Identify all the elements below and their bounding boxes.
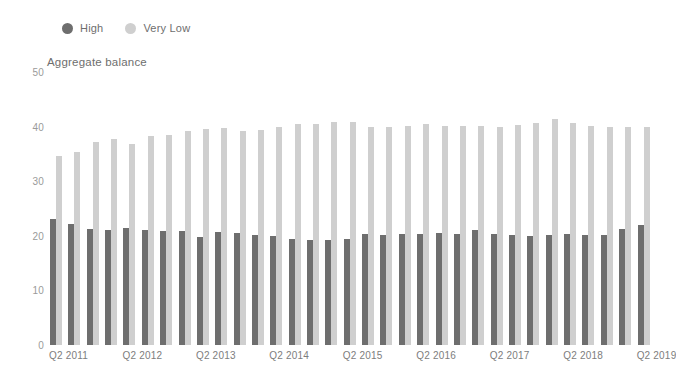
bar-very-low[interactable]: [533, 123, 539, 345]
bar-group: [564, 72, 582, 345]
bar-groups: [50, 72, 656, 345]
bar-very-low[interactable]: [185, 131, 191, 345]
y-axis-tick-0: 0: [0, 340, 44, 351]
chart-legend: High Very Low: [62, 18, 190, 38]
x-axis-tick-q2-2015: Q2 2015: [343, 350, 383, 361]
bar-very-low[interactable]: [331, 122, 337, 345]
x-axis-tick-q2-2019: Q2 2019: [637, 350, 676, 361]
bar-group: [160, 72, 178, 345]
bar-very-low[interactable]: [74, 152, 80, 345]
bar-very-low[interactable]: [93, 142, 99, 345]
bar-very-low[interactable]: [625, 127, 631, 345]
legend-item-very-low[interactable]: Very Low: [125, 22, 190, 34]
x-axis-tick-q2-2011: Q2 2011: [49, 350, 88, 361]
bar-very-low[interactable]: [386, 127, 392, 345]
legend-label-very-low: Very Low: [143, 22, 190, 34]
bar-very-low[interactable]: [405, 126, 411, 345]
bar-group: [638, 72, 656, 345]
bar-very-low[interactable]: [258, 130, 264, 345]
bar-very-low[interactable]: [203, 129, 209, 345]
y-axis-tick-10: 10: [0, 285, 44, 296]
bar-group: [289, 72, 307, 345]
bar-group: [436, 72, 454, 345]
bar-very-low[interactable]: [460, 126, 466, 345]
bar-very-low[interactable]: [56, 156, 62, 345]
bar-group: [362, 72, 380, 345]
bar-very-low[interactable]: [221, 128, 227, 345]
bar-group: [50, 72, 68, 345]
bar-group: [509, 72, 527, 345]
y-axis-tick-30: 30: [0, 176, 44, 187]
bar-very-low[interactable]: [368, 127, 374, 345]
bar-very-low[interactable]: [129, 144, 135, 345]
chart-title: Aggregate balance: [47, 56, 147, 68]
bar-very-low[interactable]: [350, 122, 356, 345]
bar-very-low[interactable]: [276, 127, 282, 345]
bar-very-low[interactable]: [588, 126, 594, 345]
bar-very-low[interactable]: [607, 127, 613, 345]
bar-group: [344, 72, 362, 345]
bar-very-low[interactable]: [570, 123, 576, 345]
bar-group: [325, 72, 343, 345]
legend-dot-high-icon: [62, 23, 73, 34]
bar-group: [87, 72, 105, 345]
bar-group: [472, 72, 490, 345]
bar-group: [417, 72, 435, 345]
bar-group: [491, 72, 509, 345]
bar-group: [179, 72, 197, 345]
legend-item-high[interactable]: High: [62, 22, 103, 34]
bar-group: [527, 72, 545, 345]
bar-very-low[interactable]: [295, 124, 301, 345]
bar-very-low[interactable]: [148, 136, 154, 345]
bar-group: [68, 72, 86, 345]
x-axis-tick-q2-2016: Q2 2016: [416, 350, 456, 361]
bar-very-low[interactable]: [552, 119, 558, 345]
legend-label-high: High: [80, 22, 103, 34]
bar-group: [234, 72, 252, 345]
bar-group: [546, 72, 564, 345]
x-axis-tick-q2-2014: Q2 2014: [269, 350, 309, 361]
bar-very-low[interactable]: [644, 127, 650, 345]
x-axis-tick-q2-2012: Q2 2012: [122, 350, 162, 361]
x-axis-tick-q2-2018: Q2 2018: [563, 350, 603, 361]
bar-group: [123, 72, 141, 345]
bar-group: [270, 72, 288, 345]
bar-group: [399, 72, 417, 345]
y-axis-tick-40: 40: [0, 121, 44, 132]
bar-very-low[interactable]: [423, 124, 429, 345]
bar-very-low[interactable]: [478, 126, 484, 345]
x-axis-tick-q2-2013: Q2 2013: [196, 350, 236, 361]
bar-group: [197, 72, 215, 345]
bar-very-low[interactable]: [497, 127, 503, 345]
bar-very-low[interactable]: [515, 125, 521, 345]
bar-group: [142, 72, 160, 345]
bar-group: [307, 72, 325, 345]
y-axis-tick-20: 20: [0, 230, 44, 241]
x-axis-tick-q2-2017: Q2 2017: [490, 350, 530, 361]
x-axis: Q2 2011Q2 2012Q2 2013Q2 2014Q2 2015Q2 20…: [50, 346, 656, 368]
bar-very-low[interactable]: [240, 131, 246, 345]
bar-group: [454, 72, 472, 345]
bar-group: [380, 72, 398, 345]
bar-very-low[interactable]: [111, 139, 117, 345]
bar-group: [619, 72, 637, 345]
bar-group: [105, 72, 123, 345]
bar-group: [215, 72, 233, 345]
bar-group: [601, 72, 619, 345]
bar-very-low[interactable]: [313, 124, 319, 345]
plot-area: [50, 72, 656, 345]
y-axis-tick-50: 50: [0, 67, 44, 78]
bar-very-low[interactable]: [442, 126, 448, 345]
y-axis: 01020304050: [0, 72, 44, 345]
bar-very-low[interactable]: [166, 135, 172, 345]
legend-dot-very-low-icon: [125, 23, 136, 34]
bar-group: [582, 72, 600, 345]
bar-group: [252, 72, 270, 345]
